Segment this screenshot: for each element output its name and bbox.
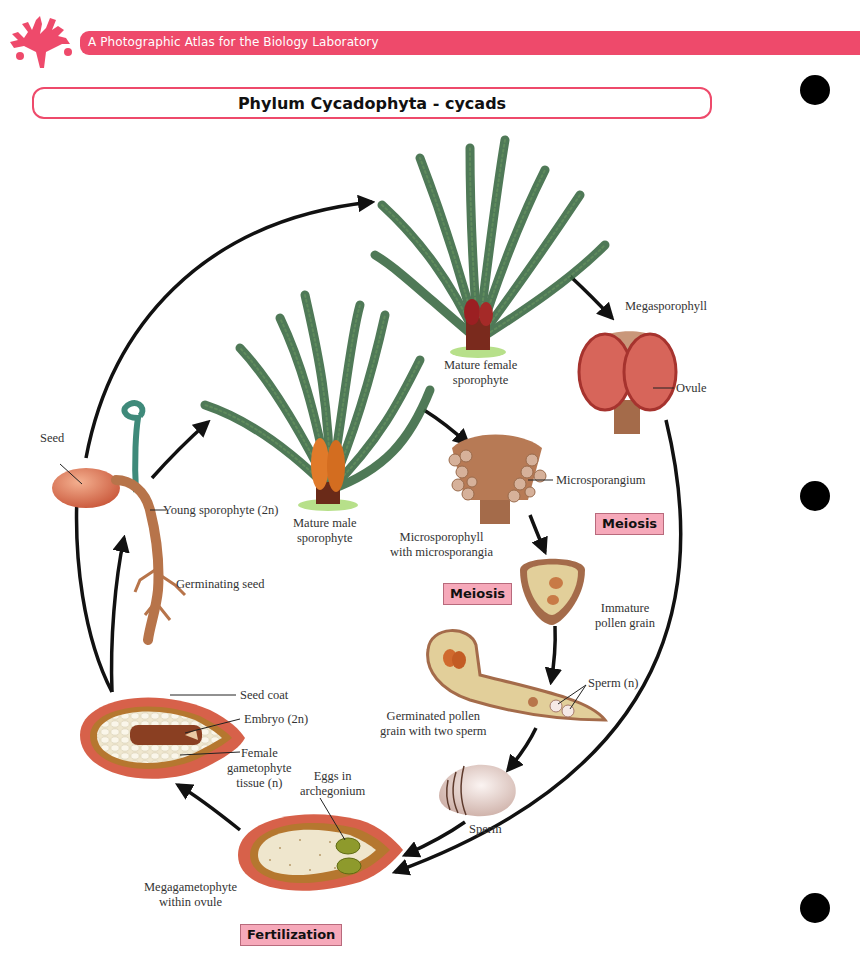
label-embryo: Embryo (2n) [244, 712, 308, 727]
label-megagametophyte: Megagametophyte within ovule [144, 880, 237, 910]
arrow-pollen-to-germinated [551, 626, 555, 682]
arrow-germinated-to-sperm [508, 728, 536, 770]
label-mature-male: Mature male sporophyte [293, 516, 357, 546]
germinating-seed-illustration [52, 403, 185, 640]
arrow-seed-to-germinating [112, 538, 124, 692]
megasporophyll-illustration [579, 331, 676, 434]
label-germinated-pollen: Germinated pollen grain with two sperm [380, 709, 487, 739]
label-sperm-n: Sperm (n) [588, 676, 638, 691]
meiosis-badge-right: Meiosis [595, 513, 664, 535]
male-cone [311, 438, 329, 490]
label-young-sporophyte: Young sporophyte (2n) [163, 503, 278, 518]
seed-cross-section-illustration [80, 695, 245, 779]
label-immature-pollen: Immature pollen grain [595, 601, 655, 631]
microsporophyll-illustration [449, 435, 553, 525]
label-female-gametophyte: Female gametophyte tissue (n) [227, 746, 292, 791]
arrow-microsporophyll-to-pollen [530, 515, 545, 552]
germinated-pollen-illustration [428, 631, 605, 720]
female-cone [464, 299, 480, 325]
label-germinating-seed: Germinating seed [176, 577, 265, 592]
label-microsporangium: Microsporangium [556, 473, 646, 488]
label-seed: Seed [40, 431, 64, 446]
arrow-male-to-microsporophyll [424, 410, 468, 444]
megagametophyte-illustration [238, 798, 403, 891]
arrow-seed-to-seed-left [77, 478, 112, 692]
arrow-female-to-megasporophyll [570, 276, 612, 318]
meiosis-badge-left: Meiosis [443, 583, 512, 605]
arrow-megagametophyte-to-seed [178, 785, 240, 830]
immature-pollen-illustration [520, 559, 585, 625]
arrow-sperm-to-ovule [405, 822, 465, 855]
label-megasporophyll: Megasporophyll [625, 299, 707, 314]
label-eggs: Eggs in archegonium [300, 769, 365, 799]
label-microsporophyll: Microsporophyll with microsporangia [390, 530, 493, 560]
label-sperm: Sperm [469, 822, 502, 837]
arrow-young-to-male [152, 422, 208, 478]
sperm-illustration [439, 765, 516, 816]
fertilization-badge: Fertilization [240, 924, 342, 946]
label-seed-coat: Seed coat [240, 688, 288, 703]
label-mature-female: Mature female sporophyte [444, 358, 517, 388]
label-ovule: Ovule [676, 381, 707, 396]
